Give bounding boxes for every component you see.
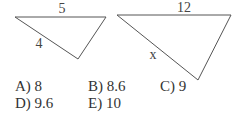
option-a: A) 8 bbox=[15, 79, 42, 94]
label-side-x: x bbox=[150, 47, 157, 62]
option-d: D) 9.6 bbox=[15, 96, 53, 111]
option-c: C) 9 bbox=[160, 79, 186, 94]
triangle-large bbox=[117, 15, 231, 80]
label-side-4: 4 bbox=[36, 36, 43, 51]
option-b: B) 8.6 bbox=[88, 79, 126, 94]
label-side-12: 12 bbox=[177, 0, 191, 15]
label-side-5: 5 bbox=[59, 1, 66, 16]
option-e: E) 10 bbox=[88, 96, 121, 111]
triangle-small bbox=[15, 17, 106, 59]
